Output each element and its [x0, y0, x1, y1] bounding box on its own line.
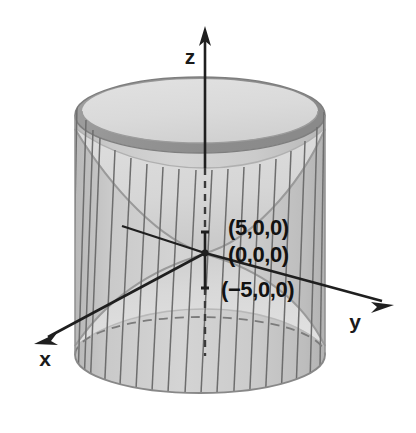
point-label-origin: (0,0,0) [228, 242, 289, 267]
point-label-positive-x: (5,0,0) [228, 215, 289, 240]
hyperboloid-in-cylinder-figure: z y x (5,0,0) (0,0,0) (−5,0,0) [0, 0, 416, 433]
y-axis-label: y [349, 310, 361, 333]
origin-point [202, 250, 209, 257]
y-axis-arrowhead [371, 302, 394, 313]
figure-canvas: z y x (5,0,0) (0,0,0) (−5,0,0) [0, 0, 416, 433]
z-axis-label: z [185, 45, 196, 68]
x-axis-label: x [39, 347, 51, 370]
point-label-negative-x: (−5,0,0) [221, 277, 294, 302]
x-axis-arrowhead [34, 333, 58, 345]
